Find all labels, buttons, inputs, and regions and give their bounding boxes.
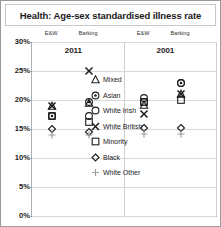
chart-body: 0%5%10%15%20%25%30% 20112001MixedAsianWh… — [3, 28, 220, 225]
legend-item-label: White British — [103, 123, 142, 130]
column-header-barking: Barking — [72, 30, 104, 36]
data-point — [177, 78, 186, 87]
open-circle-icon — [90, 105, 101, 116]
legend-item: White Other — [90, 165, 164, 181]
chart-title-bar: Health: Age-sex standardised illness rat… — [5, 4, 216, 26]
y-axis: 0%5%10%15%20%25%30% — [3, 28, 30, 225]
axis-tick — [29, 129, 32, 130]
axis-tick — [29, 187, 32, 188]
cross-x-icon — [90, 121, 101, 132]
panel-label-2001: 2001 — [156, 46, 174, 55]
y-axis-tick-label: 20% — [15, 96, 30, 104]
legend-item-label: Mixed — [103, 76, 122, 83]
legend-item-label: Black — [103, 154, 120, 161]
legend-item-label: White Irish — [103, 107, 136, 114]
data-point — [177, 129, 186, 138]
data-point — [48, 130, 57, 139]
column-header-e-w: E&W — [35, 30, 67, 36]
legend-item: Minority — [90, 134, 164, 150]
y-axis-tick-label: 15% — [15, 125, 30, 133]
circle-dot-icon — [90, 90, 101, 101]
column-header-e-w: E&W — [127, 30, 159, 36]
y-axis-tick-label: 30% — [15, 38, 30, 46]
data-point — [48, 111, 57, 120]
data-point — [48, 101, 57, 110]
chart-legend: MixedAsianWhite IrishWhite BritishMinori… — [90, 72, 164, 181]
axis-tick — [29, 42, 32, 43]
plus-icon — [90, 167, 101, 178]
data-point — [177, 96, 186, 105]
diamond-icon — [90, 152, 101, 163]
legend-item: White British — [90, 119, 164, 135]
legend-item: White Irish — [90, 103, 164, 119]
triangle-icon — [90, 74, 101, 85]
axis-tick — [29, 216, 32, 217]
axis-tick — [29, 71, 32, 72]
column-header-barking: Barking — [164, 30, 196, 36]
legend-item-label: Minority — [103, 138, 128, 145]
axis-tick — [29, 100, 32, 101]
y-axis-tick-label: 25% — [15, 67, 30, 75]
y-axis-tick-label: 10% — [15, 154, 30, 162]
legend-item: Black — [90, 150, 164, 166]
page-title: Health: Age-sex standardised illness rat… — [20, 10, 201, 21]
gridline — [32, 216, 216, 217]
legend-item-label: White Other — [103, 169, 140, 176]
open-square-icon — [90, 136, 101, 147]
legend-item: Mixed — [90, 72, 164, 88]
panel-label-2011: 2011 — [65, 46, 82, 55]
chart-container: Health: Age-sex standardised illness rat… — [0, 0, 221, 227]
legend-item-label: Asian — [103, 92, 121, 99]
plot-area: 20112001MixedAsianWhite IrishWhite Briti… — [31, 42, 217, 217]
legend-item: Asian — [90, 88, 164, 104]
axis-tick — [29, 158, 32, 159]
